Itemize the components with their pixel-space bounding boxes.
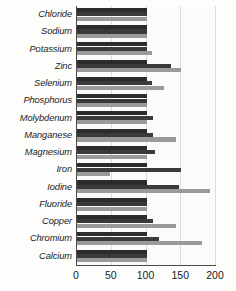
- category-label-iodine: Iodine: [0, 179, 72, 196]
- category-label-phosphorus: Phosphorus: [0, 92, 72, 109]
- category-row: Zinc: [0, 58, 236, 75]
- category-row: Manganese: [0, 127, 236, 144]
- category-label-sodium: Sodium: [0, 23, 72, 40]
- category-label-calcium: Calcium: [0, 248, 72, 265]
- category-label-magnesium: Magnesium: [0, 144, 72, 161]
- category-row: Phosphorus: [0, 92, 236, 109]
- bar-phosphorus-series-3: [77, 103, 147, 107]
- category-label-chloride: Chloride: [0, 6, 72, 23]
- bar-potassium-series-3: [77, 51, 152, 55]
- x-tick-label-0: 0: [61, 269, 91, 281]
- category-row: Fluoride: [0, 196, 236, 213]
- bar-iron-series-3: [77, 172, 110, 176]
- category-row: Iron: [0, 161, 236, 178]
- category-label-molybdenum: Molybdenum: [0, 110, 72, 127]
- bar-fluoride-series-3: [77, 207, 147, 211]
- category-label-potassium: Potassium: [0, 41, 72, 58]
- category-row: Calcium: [0, 248, 236, 265]
- bar-chart: ChlorideSodiumPotassiumZincSeleniumPhosp…: [0, 0, 236, 291]
- bar-molybdenum-series-3: [77, 120, 147, 124]
- category-label-iron: Iron: [0, 161, 72, 178]
- x-tick-label-200: 200: [200, 269, 230, 281]
- bar-selenium-series-3: [77, 86, 164, 90]
- category-row: Sodium: [0, 23, 236, 40]
- bar-manganese-series-3: [77, 137, 176, 141]
- x-axis-line: [76, 265, 216, 266]
- category-row: Chloride: [0, 6, 236, 23]
- category-row: Potassium: [0, 41, 236, 58]
- category-label-chromium: Chromium: [0, 230, 72, 247]
- bar-chromium-series-3: [77, 241, 202, 245]
- category-label-manganese: Manganese: [0, 127, 72, 144]
- category-row: Magnesium: [0, 144, 236, 161]
- category-label-selenium: Selenium: [0, 75, 72, 92]
- category-row: Molybdenum: [0, 110, 236, 127]
- category-row: Selenium: [0, 75, 236, 92]
- bar-magnesium-series-3: [77, 155, 147, 159]
- x-tick-label-100: 100: [131, 269, 161, 281]
- category-row: Chromium: [0, 230, 236, 247]
- bar-iodine-series-3: [77, 189, 210, 193]
- bar-sodium-series-3: [77, 34, 147, 38]
- bar-calcium-series-3: [77, 258, 147, 262]
- category-label-fluoride: Fluoride: [0, 196, 72, 213]
- category-row: Copper: [0, 213, 236, 230]
- bar-chloride-series-3: [77, 17, 147, 21]
- bar-zinc-series-3: [77, 68, 181, 72]
- category-label-zinc: Zinc: [0, 58, 72, 75]
- x-tick-label-150: 150: [165, 269, 195, 281]
- bar-copper-series-3: [77, 224, 176, 228]
- category-row: Iodine: [0, 179, 236, 196]
- category-label-copper: Copper: [0, 213, 72, 230]
- x-tick-label-50: 50: [96, 269, 126, 281]
